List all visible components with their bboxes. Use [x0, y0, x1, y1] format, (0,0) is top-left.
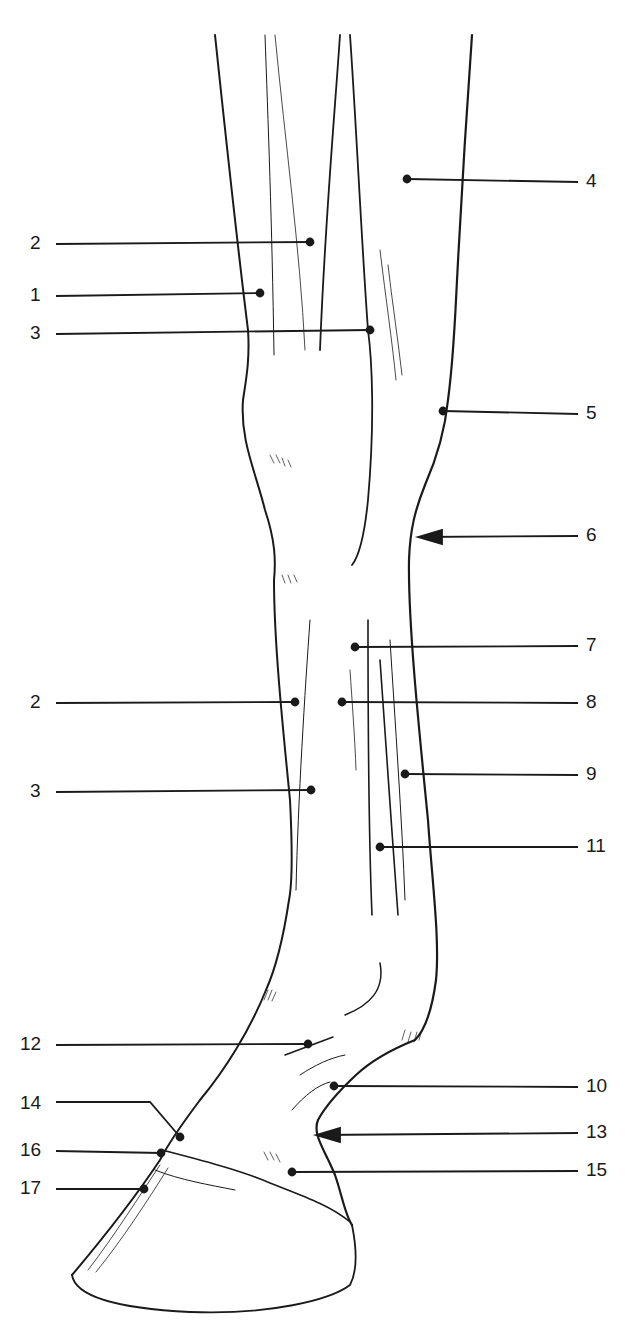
- label-5: 5: [586, 403, 597, 423]
- callout-dot-icon: [289, 1169, 296, 1176]
- tendon-line-1: [265, 35, 274, 355]
- callout-dot-icon: [141, 1186, 148, 1193]
- hoof-wall-top: [155, 1170, 235, 1190]
- callout-line: [407, 179, 578, 182]
- callout-line: [443, 411, 578, 414]
- callout-dot-icon: [352, 644, 359, 651]
- limb-left-contour: [72, 35, 292, 1275]
- callout-line: [56, 293, 260, 296]
- label-3a: 3: [30, 323, 74, 343]
- callout-dot-icon: [377, 844, 384, 851]
- callout-line: [342, 702, 578, 703]
- callout-dot-icon: [308, 787, 315, 794]
- callout-dot-icon: [158, 1150, 165, 1157]
- callout-dot-icon: [307, 239, 314, 246]
- callout-dot-icon: [305, 1041, 312, 1048]
- label-10: 10: [586, 1076, 607, 1096]
- tendon-line-2: [320, 35, 340, 350]
- label-4: 4: [586, 171, 597, 191]
- callout-dot-icon: [339, 699, 346, 706]
- label-7: 7: [586, 635, 597, 655]
- label-3b: 3: [30, 781, 74, 801]
- callout-line: [355, 646, 578, 647]
- label-13: 13: [586, 1122, 607, 1142]
- callout-line: [56, 702, 295, 703]
- callout-line: [56, 330, 370, 334]
- callout-line: [316, 1133, 578, 1135]
- callout-dot-icon: [292, 699, 299, 706]
- label-6: 6: [586, 525, 597, 545]
- hoof-outline: [72, 1225, 356, 1312]
- label-16: 16: [20, 1140, 64, 1160]
- callout-dot-icon: [440, 408, 447, 415]
- callout-line: [56, 1151, 161, 1153]
- label-17: 17: [20, 1178, 64, 1198]
- callout-dot-icon: [367, 327, 374, 334]
- callout-line: [334, 1086, 578, 1087]
- label-15: 15: [586, 1160, 607, 1180]
- callout-line: [56, 790, 311, 792]
- callout-lines: [56, 176, 578, 1193]
- label-14: 14: [20, 1093, 64, 1113]
- callout-line: [292, 1171, 578, 1172]
- label-11: 11: [586, 836, 606, 856]
- horse-limb-drawing: [0, 0, 640, 1336]
- label-2a: 2: [30, 233, 74, 253]
- label-2b: 2: [30, 692, 74, 712]
- coronary-band: [162, 1150, 350, 1222]
- label-12: 12: [20, 1034, 64, 1054]
- callout-dot-icon: [177, 1134, 184, 1141]
- callout-line: [56, 1102, 180, 1137]
- limb-right-contour: [316, 35, 472, 1225]
- callout-dot-icon: [257, 290, 264, 297]
- label-1: 1: [30, 285, 74, 305]
- callout-line: [405, 774, 578, 775]
- callout-line: [56, 1044, 308, 1045]
- callout-dot-icon: [404, 176, 411, 183]
- label-9: 9: [586, 764, 597, 784]
- anatomy-diagram: 421356728931112101413161517: [0, 0, 640, 1336]
- callout-dot-icon: [402, 771, 409, 778]
- arrowhead-icon: [418, 530, 442, 544]
- callout-dot-icon: [331, 1083, 338, 1090]
- label-8: 8: [586, 692, 597, 712]
